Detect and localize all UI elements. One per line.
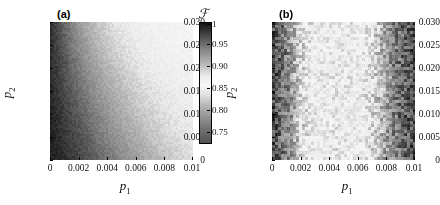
panel-b-ytickmark [272, 137, 275, 138]
panel-a-xtick-0: 0 [48, 163, 53, 173]
panel-b-ytickmark [272, 22, 275, 23]
panel-b-xtickmark [301, 157, 302, 160]
panel-b-xtick-1: 0.002 [290, 163, 311, 173]
colorbar-tickmark [207, 24, 210, 25]
panel-b: (b) 0.030 0.025 0.020 0.015 0.010 0.005 … [222, 0, 440, 205]
panel-a-yaxis-label-text: p [0, 92, 14, 99]
colorbar-tickmark [207, 66, 210, 67]
panel-a-xtickmark [107, 157, 108, 160]
panel-b-yaxis-label: p2 [221, 73, 239, 113]
panel-b-yaxis-label-sub: 2 [229, 87, 239, 91]
panel-a-xtick-5: 0.01 [184, 163, 201, 173]
panel-a-xtickmark [50, 157, 51, 160]
panel-a-yaxis-label: p2 [0, 73, 17, 113]
panel-a-xtickmark [192, 157, 193, 160]
panel-a-xtick-1: 0.002 [68, 163, 89, 173]
panel-b-ytickmark [272, 160, 275, 161]
panel-b-ytick-2: 0.020 [394, 63, 440, 73]
panel-b-xaxis-label-sub: 1 [348, 186, 352, 196]
panel-b-tag: (b) [279, 8, 293, 20]
colorbar-tickmark [207, 132, 210, 133]
panel-a-xtickmark [136, 157, 137, 160]
panel-b-xtick-2: 0.004 [319, 163, 340, 173]
colorbar-tickmark [207, 110, 210, 111]
panel-b-xtickmark [329, 157, 330, 160]
panel-b-xaxis-label: p1 [307, 178, 387, 196]
panel-b-ytickmark [272, 68, 275, 69]
panel-a-yaxis-label-sub: 2 [7, 87, 17, 91]
panel-a-xtickmark [164, 157, 165, 160]
panel-a-ytickmark [50, 91, 53, 92]
panel-b-xtick-5: 0.01 [406, 163, 423, 173]
panel-b-xtick-3: 0.006 [347, 163, 368, 173]
panel-b-xtickmark [414, 157, 415, 160]
panel-a-ytickmark [50, 45, 53, 46]
colorbar-title: ℱ [198, 6, 208, 22]
colorbar-tickmark [207, 88, 210, 89]
panel-b-xtickmark [272, 157, 273, 160]
panel-b-ytickmark [272, 114, 275, 115]
colorbar [199, 22, 212, 144]
panel-a: (a) 0.030 0.025 0.020 0.015 0.010 0.005 … [0, 0, 205, 205]
panel-a-tag: (a) [57, 8, 70, 20]
panel-a-ytickmark [50, 114, 53, 115]
panel-b-xtickmark [386, 157, 387, 160]
panel-a-ytickmark [50, 160, 53, 161]
panel-a-ytickmark [50, 68, 53, 69]
panel-a-ytickmark [50, 137, 53, 138]
panel-b-ytick-3: 0.015 [394, 86, 440, 96]
panel-b-yaxis-label-text: p [221, 92, 236, 99]
panel-a-xtick-4: 0.008 [154, 163, 175, 173]
panel-b-ytick-0: 0.030 [394, 17, 440, 27]
panel-b-ytickmark [272, 45, 275, 46]
panel-a-xtick-3: 0.006 [125, 163, 146, 173]
colorbar-tickmark [207, 44, 210, 45]
panel-b-xtickmark [358, 157, 359, 160]
panel-b-xtick-0: 0 [270, 163, 275, 173]
figure-root: (a) 0.030 0.025 0.020 0.015 0.010 0.005 … [0, 0, 440, 205]
panel-b-xtick-4: 0.008 [376, 163, 397, 173]
panel-a-xaxis-label-sub: 1 [126, 186, 130, 196]
panel-b-ytick-5: 0.005 [394, 132, 440, 142]
panel-a-ytickmark [50, 22, 53, 23]
panel-b-ytick-1: 0.025 [394, 40, 440, 50]
panel-a-xtickmark [79, 157, 80, 160]
panel-a-xaxis-label: p1 [85, 178, 165, 196]
colorbar-tick-0: 1 [212, 19, 217, 29]
panel-b-ytickmark [272, 91, 275, 92]
panel-b-ytick-4: 0.010 [394, 109, 440, 119]
panel-a-xtick-2: 0.004 [97, 163, 118, 173]
